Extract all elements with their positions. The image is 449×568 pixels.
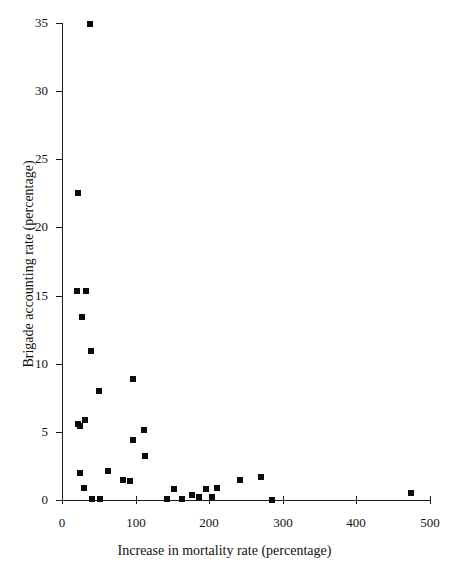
x-axis-line [62,500,431,501]
data-point [408,490,414,496]
x-tick-label: 200 [189,516,229,529]
x-tick-mark [430,496,431,504]
data-point [196,494,202,500]
x-tick-label: 400 [336,516,376,529]
data-point [82,417,88,423]
data-point [77,423,83,429]
data-point [87,21,93,27]
y-tick-label: 0 [22,493,48,506]
y-tick-label: 35 [22,16,48,29]
data-point [164,496,170,502]
data-point [130,376,136,382]
data-point [75,190,81,196]
x-tick-label: 100 [116,516,156,529]
data-point [130,437,136,443]
data-point [179,496,185,502]
data-point [83,288,89,294]
data-point [237,477,243,483]
y-axis-label: Brigade accounting rate (percentage) [21,74,37,454]
data-point [79,314,85,320]
x-tick-label: 300 [263,516,303,529]
data-point [120,477,126,483]
data-point [171,486,177,492]
data-point [203,486,209,492]
data-point [74,288,80,294]
data-point [97,496,103,502]
scatter-plot-figure: 05101520253035 0100200300400500 Increase… [0,0,449,568]
data-point [141,427,147,433]
x-tick-label: 500 [410,516,449,529]
data-point [142,453,148,459]
x-axis-label: Increase in mortality rate (percentage) [0,543,449,559]
data-point [81,485,87,491]
data-point [214,485,220,491]
data-point [89,496,95,502]
data-point [88,348,94,354]
data-point [269,497,275,503]
data-point [189,492,195,498]
data-point [96,388,102,394]
x-tick-label: 0 [42,516,82,529]
plot-area [62,23,430,500]
data-point [105,468,111,474]
data-point [258,474,264,480]
data-point [209,494,215,500]
data-point [127,478,133,484]
data-point [77,470,83,476]
